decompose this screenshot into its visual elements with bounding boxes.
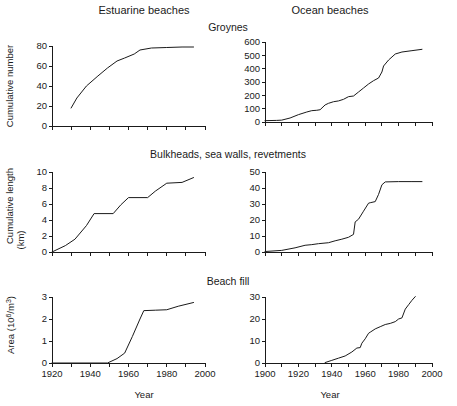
y-tick-label: 40	[249, 182, 260, 193]
axis-spine	[52, 46, 205, 126]
y-tick-label: 400	[244, 63, 260, 74]
data-curve	[325, 297, 415, 363]
x-tick-label: 1940	[80, 368, 101, 379]
y-tick-label: 20	[249, 214, 260, 225]
ylabel-cumulative-length: Cumulative length	[4, 168, 15, 244]
y-tick-label: 8	[42, 182, 47, 193]
y-tick-label: 10	[249, 335, 260, 346]
ylabel-cumulative-number: Cumulative number	[4, 45, 15, 127]
data-curve	[52, 303, 194, 364]
panel-beachfill-ocean: 0102030190019201940196019802000	[249, 291, 442, 379]
column-header-ocean: Ocean beaches	[291, 4, 369, 16]
axis-spine	[265, 172, 432, 252]
y-tick-label: 50	[249, 166, 260, 177]
x-tick-label: 2000	[194, 368, 215, 379]
axis-spine	[52, 297, 205, 363]
data-curve	[71, 47, 193, 108]
column-header-estuarine: Estuarine beaches	[98, 4, 190, 16]
y-tick-label: 100	[244, 103, 260, 114]
x-tick-label: 2000	[421, 368, 442, 379]
y-tick-label: 40	[36, 80, 47, 91]
y-tick-label: 2	[42, 230, 47, 241]
y-tick-label: 0	[255, 246, 260, 257]
y-tick-label: 10	[36, 166, 47, 177]
row-title-groynes: Groynes	[208, 21, 248, 33]
y-tick-label: 300	[244, 76, 260, 87]
x-tick-label: 1940	[321, 368, 342, 379]
y-tick-label: 80	[36, 40, 47, 51]
row-title-bulkheads: Bulkheads, sea walls, revetments	[150, 148, 306, 160]
y-tick-label: 0	[42, 357, 47, 368]
data-curve	[265, 49, 422, 120]
y-tick-label: 500	[244, 50, 260, 61]
xlabel-estuarine: Year	[134, 389, 153, 400]
multi-panel-figure: Estuarine beaches Ocean beaches Groynes …	[0, 0, 457, 406]
y-tick-label: 3	[42, 291, 47, 302]
y-tick-label: 200	[244, 90, 260, 101]
y-tick-label: 0	[255, 357, 260, 368]
x-tick-label: 1920	[288, 368, 309, 379]
panel-beachfill-estuarine: 012319201940196019802000	[41, 291, 215, 379]
y-tick-label: 30	[249, 198, 260, 209]
x-tick-label: 1960	[355, 368, 376, 379]
axis-spine	[52, 172, 205, 252]
x-tick-label: 1960	[118, 368, 139, 379]
x-tick-label: 1980	[156, 368, 177, 379]
y-tick-label: 30	[249, 291, 260, 302]
y-tick-label: 0	[42, 120, 47, 131]
ylabel-area: Area (106/m3)	[5, 296, 16, 354]
data-curve	[265, 182, 422, 252]
data-curve	[52, 178, 194, 252]
ylabel-cumulative-length-units: (km)	[15, 231, 26, 250]
axis-spine	[265, 42, 432, 122]
y-tick-label: 20	[249, 313, 260, 324]
row-title-beach-fill: Beach fill	[207, 275, 250, 287]
panel-bulkheads-ocean: 01020304050	[249, 166, 432, 257]
x-tick-label: 1900	[254, 368, 275, 379]
xlabel-ocean: Year	[320, 389, 339, 400]
y-tick-label: 0	[255, 116, 260, 127]
panel-groynes-ocean: 0100200300400500600	[244, 36, 432, 127]
y-tick-label: 4	[42, 214, 47, 225]
y-tick-label: 600	[244, 36, 260, 47]
y-tick-label: 20	[36, 100, 47, 111]
x-tick-label: 1920	[41, 368, 62, 379]
y-tick-label: 60	[36, 60, 47, 71]
y-tick-label: 0	[42, 246, 47, 257]
x-tick-label: 1980	[388, 368, 409, 379]
y-tick-label: 2	[42, 313, 47, 324]
y-tick-label: 10	[249, 230, 260, 241]
y-tick-label: 6	[42, 198, 47, 209]
panel-groynes-estuarine: 020406080	[36, 40, 205, 131]
y-tick-label: 1	[42, 335, 47, 346]
panel-bulkheads-estuarine: 0246810	[36, 166, 205, 257]
